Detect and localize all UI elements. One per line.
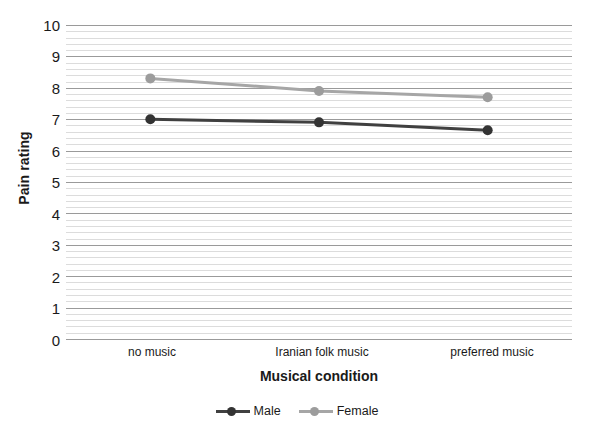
legend-item-female: Female [299, 404, 379, 418]
x-tick-label: Iranian folk music [275, 345, 368, 359]
y-tick-label: 2 [24, 270, 60, 285]
chart-legend: Male Female [0, 404, 594, 418]
y-tick-label: 1 [24, 301, 60, 316]
y-tick-label: 10 [24, 18, 60, 33]
y-tick-label: 4 [24, 207, 60, 222]
plot-area [66, 25, 572, 339]
y-tick-label: 8 [24, 81, 60, 96]
legend-marker-icon [216, 405, 250, 417]
data-point-marker [145, 114, 155, 124]
data-point-marker [145, 73, 155, 83]
y-axis-tick-labels: 10 9 8 7 6 5 4 3 2 1 0 [22, 0, 60, 436]
legend-label: Male [254, 404, 281, 418]
y-tick-label: 7 [24, 112, 60, 127]
gridline-major [66, 339, 572, 340]
data-point-marker [314, 117, 324, 127]
y-tick-label: 0 [24, 333, 60, 348]
data-series-layer [66, 25, 572, 339]
y-tick-label: 9 [24, 49, 60, 64]
data-point-marker [483, 125, 493, 135]
legend-marker-icon [299, 405, 333, 417]
x-axis-title: Musical condition [66, 368, 572, 384]
data-point-marker [483, 92, 493, 102]
series-female [145, 73, 492, 102]
y-tick-label: 6 [24, 144, 60, 159]
series-male [145, 114, 492, 135]
x-axis-tick-labels: no music Iranian folk music preferred mu… [66, 345, 572, 365]
x-tick-label: preferred music [450, 345, 533, 359]
data-point-marker [314, 86, 324, 96]
y-tick-label: 3 [24, 238, 60, 253]
legend-item-male: Male [216, 404, 281, 418]
x-tick-label: no music [128, 345, 176, 359]
y-tick-label: 5 [24, 175, 60, 190]
line-chart: Pain rating 10 9 8 7 6 5 4 3 2 1 0 no mu… [0, 0, 594, 436]
legend-label: Female [337, 404, 379, 418]
